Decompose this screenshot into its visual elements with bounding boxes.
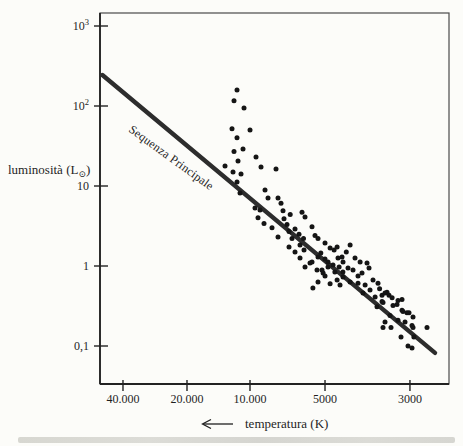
y-tick-label: 102 bbox=[73, 97, 89, 113]
star-point bbox=[335, 245, 340, 250]
star-point bbox=[302, 248, 307, 253]
star-point bbox=[361, 291, 366, 296]
star-point bbox=[281, 208, 286, 213]
star-point bbox=[337, 265, 342, 270]
star-point bbox=[344, 249, 349, 254]
star-point bbox=[297, 232, 302, 237]
star-point bbox=[365, 261, 370, 266]
star-point bbox=[331, 263, 336, 268]
star-point bbox=[368, 288, 373, 293]
x-tick-label: 40.000 bbox=[106, 392, 139, 406]
star-point bbox=[358, 260, 363, 265]
star-point bbox=[236, 159, 241, 164]
star-point bbox=[316, 280, 321, 285]
star-point bbox=[300, 210, 305, 215]
star-point bbox=[341, 274, 346, 279]
star-point bbox=[258, 208, 263, 213]
star-point bbox=[235, 88, 240, 93]
x-tick-label: 3000 bbox=[398, 392, 422, 406]
star-point bbox=[298, 243, 303, 248]
star-point bbox=[235, 180, 240, 185]
star-point bbox=[223, 164, 228, 169]
star-point bbox=[287, 229, 292, 234]
star-point bbox=[308, 261, 313, 266]
star-point bbox=[287, 245, 292, 250]
star-point bbox=[328, 281, 333, 286]
star-point bbox=[338, 282, 343, 287]
star-point bbox=[279, 201, 284, 206]
star-point bbox=[303, 215, 308, 220]
star-point bbox=[274, 167, 279, 172]
star-point bbox=[356, 281, 361, 286]
star-point bbox=[377, 286, 382, 291]
star-point bbox=[396, 318, 401, 323]
star-point bbox=[399, 334, 404, 339]
star-point bbox=[310, 286, 315, 291]
star-point bbox=[387, 293, 392, 298]
x-tick-label: 5000 bbox=[313, 392, 337, 406]
star-point bbox=[348, 243, 353, 248]
star-point bbox=[375, 304, 380, 309]
star-point bbox=[356, 274, 361, 279]
star-point bbox=[238, 190, 243, 195]
star-point bbox=[316, 236, 321, 241]
star-point bbox=[407, 310, 412, 315]
star-point bbox=[241, 147, 246, 152]
star-point bbox=[282, 216, 287, 221]
sun-symbol: ⊙ bbox=[78, 169, 86, 179]
star-point bbox=[380, 299, 385, 304]
star-point bbox=[332, 270, 337, 275]
star-point bbox=[301, 236, 306, 241]
star-point bbox=[403, 319, 408, 324]
star-point bbox=[262, 221, 267, 226]
star-point bbox=[360, 270, 365, 275]
star-point bbox=[376, 281, 381, 286]
plot-frame bbox=[100, 13, 449, 384]
star-point bbox=[259, 165, 264, 170]
star-point bbox=[348, 280, 353, 285]
star-point bbox=[341, 260, 346, 265]
star-point bbox=[326, 265, 331, 270]
x-axis-title-row: temperatura (K) bbox=[200, 416, 328, 432]
star-point bbox=[363, 282, 368, 287]
star-point bbox=[411, 334, 416, 339]
star-point bbox=[285, 222, 290, 227]
star-point bbox=[230, 126, 235, 131]
star-point bbox=[293, 227, 298, 232]
star-point bbox=[388, 313, 393, 318]
y-tick-label: 0,1 bbox=[74, 339, 89, 353]
star-point bbox=[293, 249, 298, 254]
left-arrow-icon bbox=[200, 418, 234, 430]
bottom-gray-bar bbox=[18, 437, 455, 443]
star-point bbox=[410, 346, 415, 351]
star-point bbox=[232, 98, 237, 103]
star-point bbox=[315, 268, 320, 273]
star-point bbox=[391, 303, 396, 308]
star-point bbox=[276, 195, 281, 200]
star-point bbox=[411, 325, 416, 330]
star-point bbox=[323, 274, 328, 279]
star-point bbox=[326, 260, 331, 265]
star-point bbox=[270, 225, 275, 230]
star-point bbox=[316, 254, 321, 259]
star-point bbox=[235, 135, 240, 140]
hr-diagram-figure: 1031021010,140.00020.00010.00050003000Se… bbox=[0, 0, 463, 446]
star-point bbox=[276, 235, 281, 240]
star-point bbox=[367, 266, 372, 271]
star-point bbox=[266, 195, 271, 200]
star-point bbox=[383, 319, 388, 324]
star-point bbox=[248, 128, 253, 133]
y-tick-label: 1 bbox=[83, 259, 89, 273]
star-point bbox=[340, 270, 345, 275]
star-point bbox=[411, 315, 416, 320]
y-axis-title-text: luminosità (L bbox=[8, 162, 78, 177]
star-point bbox=[254, 155, 259, 160]
x-axis-title: temperatura (K) bbox=[245, 416, 328, 432]
star-point bbox=[298, 256, 303, 261]
x-tick-label: 10.000 bbox=[234, 392, 267, 406]
star-point bbox=[340, 254, 345, 259]
star-point bbox=[263, 188, 268, 193]
star-point bbox=[371, 277, 376, 282]
star-point bbox=[335, 277, 340, 282]
star-point bbox=[346, 266, 351, 271]
